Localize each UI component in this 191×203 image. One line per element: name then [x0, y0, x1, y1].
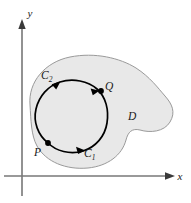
figure-container: y x P Q D C1 C2 — [0, 0, 191, 203]
curve-label-c2-sub: 2 — [49, 75, 53, 84]
y-axis-arrowhead — [18, 19, 25, 29]
region-d-shape — [30, 55, 173, 168]
x-axis-arrowhead — [165, 172, 175, 179]
point-label-p: P — [33, 146, 41, 158]
point-p-dot — [45, 140, 51, 146]
vector-figure: y x P Q D C1 C2 — [0, 0, 191, 203]
x-axis-label: x — [177, 170, 183, 182]
region-label-d: D — [127, 110, 137, 122]
point-q-dot — [98, 88, 104, 94]
curve-label-c1-sub: 1 — [92, 153, 96, 162]
y-axis-label: y — [27, 7, 33, 19]
point-label-q: Q — [105, 80, 114, 92]
